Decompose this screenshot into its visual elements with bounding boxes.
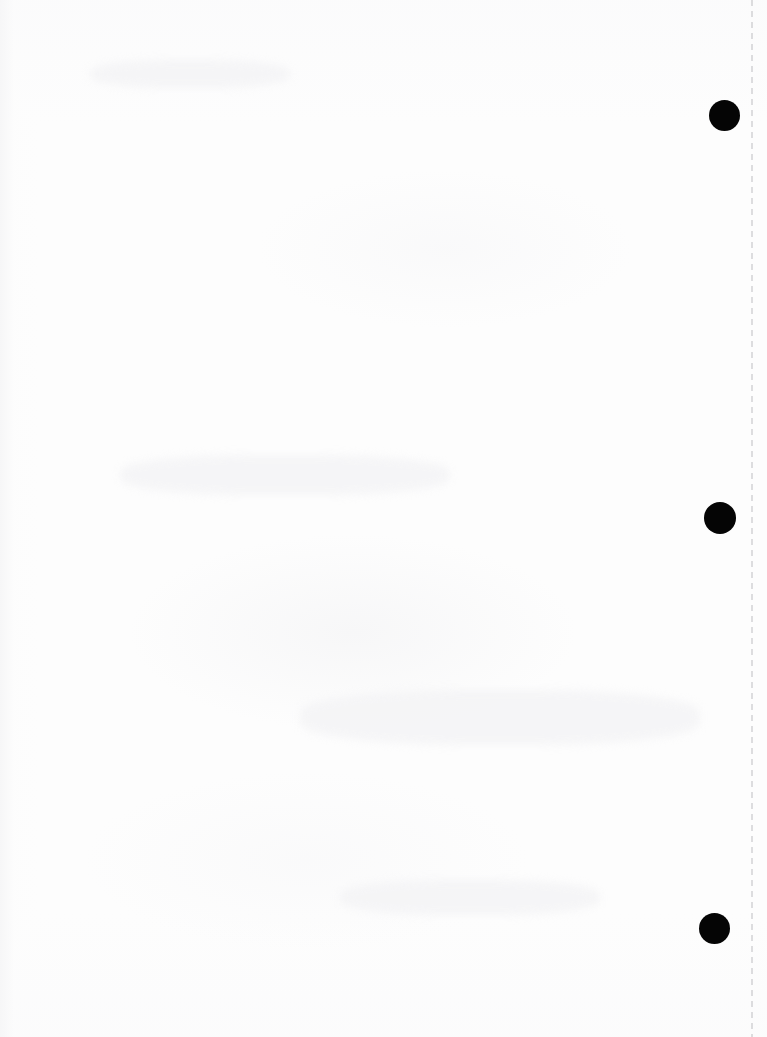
paper-texture [0,0,767,1037]
scan-artifact-smudge [340,880,600,915]
scan-artifact-smudge [300,690,700,745]
vertical-dashed-margin-line [751,0,753,1037]
mark-dot-top [709,100,740,131]
mark-dot-bottom [699,913,730,944]
scan-artifact-smudge [120,455,450,495]
scan-artifact-smudge [90,60,290,88]
scanned-page [0,0,767,1037]
mark-dot-middle [704,502,736,534]
